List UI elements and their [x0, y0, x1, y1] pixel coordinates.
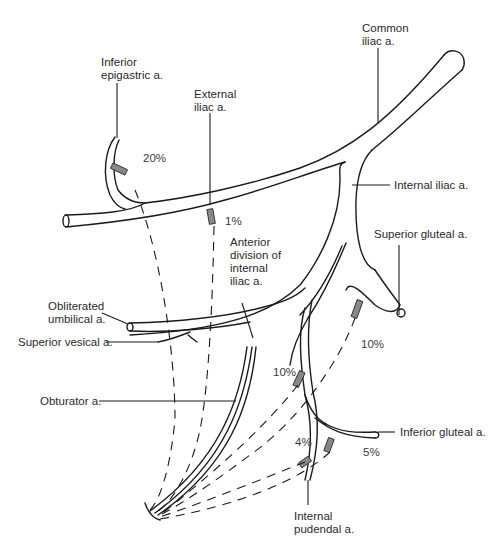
- posterior-descending-trunk: [300, 300, 326, 424]
- collateral-pudendal-path: [160, 462, 305, 517]
- label-obturator: Obturator a.: [40, 395, 101, 408]
- collateral-external-iliac-path: [155, 226, 214, 513]
- label-superior-vesical: Superior vesical a.: [18, 336, 113, 349]
- collateral-epigastric-path: [135, 190, 175, 510]
- label-internal-iliac: Internal iliac a.: [394, 179, 468, 192]
- external-iliac-stump: [207, 209, 216, 225]
- label-anterior-division: Anterior division of internal iliac a.: [230, 236, 281, 288]
- superior-gluteal-artery: [346, 270, 400, 311]
- iliac-artery-diagram: Inferior epigastric a. External iliac a.…: [0, 0, 496, 552]
- pct-superior-gluteal: 10%: [361, 338, 384, 350]
- label-external-iliac: External iliac a.: [194, 88, 236, 114]
- pct-inferior-epigastric: 20%: [143, 152, 166, 164]
- external-iliac-left-upper: [66, 203, 145, 215]
- label-inferior-epigastric: Inferior epigastric a.: [101, 56, 163, 82]
- pct-anterior-division: 10%: [273, 366, 296, 378]
- external-iliac-end-cap: [63, 215, 69, 227]
- label-common-iliac: Common iliac a.: [362, 22, 409, 48]
- leader-anterior-division: [242, 303, 253, 338]
- label-inferior-gluteal: Inferior gluteal a.: [400, 426, 486, 439]
- epigastric-stump: [110, 163, 127, 175]
- internal-iliac-right-edge: [356, 150, 375, 270]
- pct-external-iliac: 1%: [225, 215, 242, 227]
- superior-gluteal-cap: [397, 309, 405, 317]
- pct-inferior-gluteal: 5%: [363, 446, 380, 458]
- collateral-anterior-division-path: [160, 385, 298, 515]
- leader-obliterated-umbilical: [102, 313, 128, 324]
- label-internal-pudendal: Internal pudendal a.: [294, 510, 354, 536]
- collateral-superior-gluteal-path: [160, 318, 355, 515]
- superior-vesical-artery: [158, 332, 197, 342]
- obturator-artery: [150, 347, 256, 515]
- superior-gluteal-stump: [351, 300, 363, 319]
- inferior-gluteal-artery: [315, 418, 375, 438]
- label-superior-gluteal: Superior gluteal a.: [374, 228, 467, 241]
- common-iliac-end-cap: [444, 51, 464, 70]
- pct-internal-pudendal: 4%: [295, 436, 312, 448]
- inferior-gluteal-cap: [375, 432, 379, 438]
- inferior-gluteal-stump: [324, 437, 334, 452]
- common-external-iliac-lower-edge: [66, 70, 462, 227]
- label-obliterated-umbilical: Obliterated umbilical a.: [48, 300, 106, 326]
- anterior-division: [290, 243, 346, 365]
